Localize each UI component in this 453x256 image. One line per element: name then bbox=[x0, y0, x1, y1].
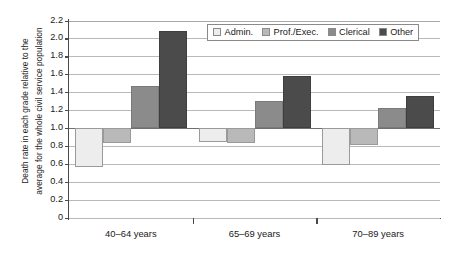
y-axis-tick-label: 0.6 bbox=[50, 159, 63, 168]
y-axis-tick-label: 1.4 bbox=[50, 88, 63, 97]
y-axis-tick-label: 1.2 bbox=[50, 105, 63, 114]
y-axis-tick-mark bbox=[65, 38, 69, 39]
y-axis-tick-mark bbox=[65, 74, 69, 75]
legend-swatch-icon bbox=[379, 28, 387, 36]
y-axis-tick-mark bbox=[65, 200, 69, 201]
y-axis-tick-label: 1.8 bbox=[50, 52, 63, 61]
y-axis-tick-label: 0.4 bbox=[50, 177, 63, 186]
y-axis-tick: 0 bbox=[69, 218, 70, 219]
gridline bbox=[69, 92, 440, 93]
legend-label: Prof./Exec. bbox=[274, 28, 319, 37]
y-axis-tick-mark bbox=[65, 56, 69, 57]
bar-admin-1 bbox=[75, 128, 103, 167]
legend-swatch-icon bbox=[328, 28, 336, 36]
y-axis-tick: 1.8 bbox=[69, 56, 70, 57]
legend-label: Clerical bbox=[339, 28, 370, 37]
legend-item-admin[interactable]: Admin. bbox=[213, 28, 253, 37]
y-axis-tick: 1.4 bbox=[69, 92, 70, 93]
gridline bbox=[69, 146, 440, 147]
y-axis-tick-mark bbox=[65, 21, 69, 22]
y-axis-tick-mark bbox=[65, 128, 69, 129]
y-axis-tick-label: 1.0 bbox=[50, 123, 63, 132]
bar-other-3 bbox=[406, 96, 434, 128]
bar-prof-exec-3 bbox=[350, 128, 378, 144]
gridline bbox=[69, 218, 440, 219]
y-axis-tick: 0.4 bbox=[69, 182, 70, 183]
gridline bbox=[69, 200, 440, 201]
gridline bbox=[69, 182, 440, 183]
legend-label: Admin. bbox=[225, 28, 254, 37]
bar-clerical-3 bbox=[378, 108, 406, 129]
y-axis-tick-label: 0.8 bbox=[50, 141, 63, 150]
y-axis-tick: 2.2 bbox=[69, 21, 70, 22]
bar-chart: Death rate in each grade relative to the… bbox=[0, 0, 453, 256]
y-axis-tick-label: 2.0 bbox=[50, 34, 63, 43]
gridline bbox=[69, 56, 440, 57]
y-axis-tick: 1.6 bbox=[69, 74, 70, 75]
y-axis-tick-label: 1.6 bbox=[50, 70, 63, 79]
bar-prof-exec-2 bbox=[227, 128, 255, 142]
bar-clerical-1 bbox=[131, 86, 159, 128]
legend-item-clerical[interactable]: Clerical bbox=[328, 28, 370, 37]
y-axis-tick-label: 0 bbox=[58, 213, 63, 222]
x-axis-label-1: 40–64 years bbox=[105, 228, 157, 239]
y-axis-tick: 2.0 bbox=[69, 38, 70, 39]
y-axis-tick: 0.6 bbox=[69, 164, 70, 165]
y-axis-tick-mark bbox=[65, 146, 69, 147]
bar-clerical-2 bbox=[255, 101, 283, 129]
x-axis-label-3: 70–89 years bbox=[352, 228, 404, 239]
y-axis-tick-mark bbox=[65, 92, 69, 93]
y-axis-tick-label: 0.2 bbox=[50, 195, 63, 204]
gridline bbox=[69, 164, 440, 165]
x-axis-label-2: 65–69 years bbox=[229, 228, 281, 239]
y-axis-tick-mark bbox=[65, 218, 69, 219]
y-axis-tick-mark bbox=[65, 110, 69, 111]
x-axis-separator bbox=[316, 218, 317, 224]
bar-admin-2 bbox=[199, 128, 227, 141]
legend-label: Other bbox=[390, 28, 413, 37]
legend: Admin.Prof./Exec.ClericalOther bbox=[207, 24, 419, 41]
y-axis-tick-label: 2.2 bbox=[50, 16, 63, 25]
x-axis-separator bbox=[193, 218, 194, 224]
y-axis-tick: 0.2 bbox=[69, 200, 70, 201]
gridline bbox=[69, 21, 440, 22]
legend-item-other[interactable]: Other bbox=[379, 28, 413, 37]
legend-item-prof-exec[interactable]: Prof./Exec. bbox=[262, 28, 318, 37]
legend-swatch-icon bbox=[213, 28, 221, 36]
bar-prof-exec-1 bbox=[103, 128, 131, 142]
y-axis-tick-mark bbox=[65, 182, 69, 183]
y-axis-tick: 1.2 bbox=[69, 110, 70, 111]
y-axis-tick: 1.0 bbox=[69, 128, 70, 129]
legend-swatch-icon bbox=[262, 28, 270, 36]
bar-other-1 bbox=[159, 31, 187, 129]
gridline bbox=[69, 74, 440, 75]
y-axis-tick: 0.8 bbox=[69, 146, 70, 147]
bar-admin-3 bbox=[322, 128, 350, 165]
bar-other-2 bbox=[283, 76, 311, 129]
plot-area: 00.20.40.60.81.01.21.41.61.82.02.2 bbox=[69, 21, 440, 218]
y-axis-tick-mark bbox=[65, 164, 69, 165]
